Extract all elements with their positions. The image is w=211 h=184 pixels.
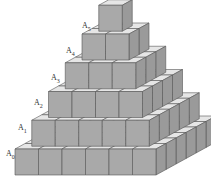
cube-side-face: [143, 86, 153, 118]
cube-side-face: [196, 122, 206, 154]
cube-side-face: [176, 133, 186, 165]
layer-label-a1: A1: [18, 124, 27, 134]
cube-side-face: [136, 57, 146, 89]
cube-side-face: [179, 98, 189, 130]
cube-front-face: [49, 92, 73, 118]
cube-side-face: [159, 109, 169, 141]
layer-label-a5: A5: [82, 22, 91, 32]
cube-side-face: [149, 115, 159, 147]
cube-side-face: [139, 23, 149, 55]
cube-front-face: [15, 149, 39, 175]
cube-front-face: [119, 92, 143, 118]
cube-front-face: [62, 149, 86, 175]
cube-front-face: [39, 149, 63, 175]
cube-front-face: [112, 63, 136, 89]
cube-front-face: [106, 34, 130, 60]
cube-front-face: [99, 5, 123, 31]
cube-front-face: [126, 120, 150, 146]
layer-label-a2: A2: [34, 99, 43, 109]
cube-front-face: [82, 34, 106, 60]
cube-front-face: [65, 63, 89, 89]
cube-side-face: [166, 138, 176, 170]
cube-side-face: [156, 46, 166, 78]
layer-label-a0: A0: [6, 150, 15, 160]
cube-front-face: [86, 149, 110, 175]
cube-side-face: [163, 75, 173, 107]
cube-side-face: [129, 29, 139, 61]
cube-side-face: [156, 144, 166, 176]
cube-side-face: [122, 0, 132, 31]
cube-side-face: [173, 70, 183, 102]
cube-front-face: [32, 120, 56, 146]
cube-front-face: [96, 92, 120, 118]
cube-front-face: [79, 120, 103, 146]
cube-side-face: [169, 104, 179, 136]
cube-front-face: [55, 120, 79, 146]
layer-label-a4: A4: [66, 47, 75, 57]
cube-front-face: [89, 63, 113, 89]
cube-side-face: [153, 81, 163, 113]
layer-label-a3: A3: [51, 74, 60, 84]
pyramid-diagram: [0, 0, 211, 184]
cube-front-face: [72, 92, 96, 118]
cube-front-face: [133, 149, 157, 175]
cube-side-face: [189, 93, 199, 125]
cube-front-face: [109, 149, 133, 175]
cube-front-face: [102, 120, 126, 146]
cube-side-face: [186, 127, 196, 159]
cube-side-face: [146, 52, 156, 84]
